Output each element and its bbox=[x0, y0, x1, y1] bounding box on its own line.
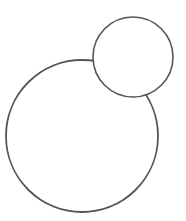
small-circle bbox=[93, 17, 173, 97]
sketch-canvas bbox=[0, 0, 186, 221]
large-circle bbox=[6, 60, 158, 212]
